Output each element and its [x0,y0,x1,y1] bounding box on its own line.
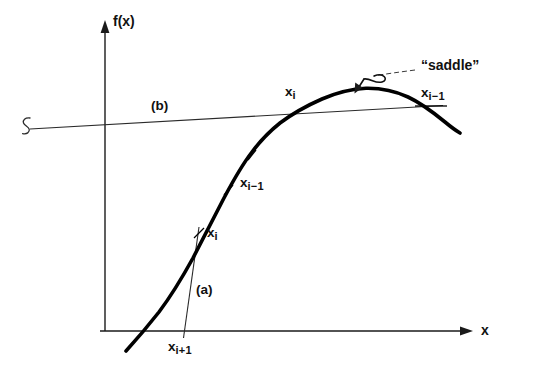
label-x-i-upper-subscript: i [293,89,296,101]
tangent-line-b-group [23,106,443,134]
label-x-i-lower-base: x [207,225,215,240]
label-x-i-upper-base: x [285,84,293,99]
label-x-i-upper: xi [285,85,296,99]
x-axis-group [100,327,473,336]
label-x-i-plus-1: xi+1 [168,340,192,354]
label-x-i-minus-1-mid-subscript: i−1 [248,180,264,192]
label-x-i-lower: xi [207,226,218,240]
y-axis-group [101,20,110,331]
x-axis-arrowhead-icon [460,327,473,336]
x-axis-label: x [481,323,489,337]
curve-point-ticks-group [194,150,256,238]
saddle-callout-squiggle-icon [364,75,385,83]
figure-canvas: f(x) x (b) (a) “saddle” xi xi−1 xi xi−1 … [0,0,534,370]
tangent-line-b [30,106,443,130]
label-saddle: “saddle” [421,58,479,72]
label-x-i-plus-1-subscript: i+1 [176,344,192,356]
fx-curve-path [126,88,460,351]
label-tangent-a: (a) [196,283,213,297]
label-x-i-plus-1-base: x [168,339,176,354]
fx-curve-group [126,88,460,351]
label-tangent-b: (b) [151,99,168,113]
diagram-svg [0,0,534,370]
label-x-i-minus-1-right: xi−1 [421,86,445,100]
label-x-i-minus-1-right-subscript: i−1 [429,90,445,102]
y-axis-arrowhead-icon [101,20,110,33]
y-axis-label: f(x) [113,14,135,28]
label-x-i-minus-1-mid-base: x [240,175,248,190]
label-x-i-minus-1-right-base: x [421,85,429,100]
label-x-i-lower-subscript: i [215,230,218,242]
label-x-i-minus-1-mid: xi−1 [240,176,264,190]
line-break-squiggle-icon [23,118,30,134]
